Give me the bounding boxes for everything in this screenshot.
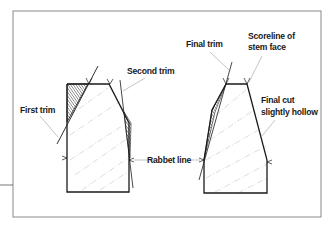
rabbet-tick-icon: [62, 156, 67, 160]
stem-trimming-diagram: First trim Second trim Rabbet line Final…: [0, 0, 329, 230]
first-trim-waste: [67, 84, 88, 122]
right-stem-outline: [204, 84, 267, 193]
rabbet-tick-icon: [267, 160, 272, 164]
label-rabbet-line: Rabbet line: [147, 155, 192, 165]
label-second-trim: Second trim: [127, 66, 175, 76]
label-first-trim: First trim: [20, 105, 56, 115]
final-trim-cut-line: [199, 62, 232, 180]
first-trim-cut-line: [57, 66, 98, 144]
second-trim-cut-line: [120, 80, 133, 188]
label-scoreline-line2: stem face: [248, 42, 286, 52]
label-scoreline-line1: Scoreline of: [248, 31, 295, 41]
left-stem-section: [57, 66, 134, 192]
label-final-trim: Final trim: [186, 39, 223, 49]
label-final-cut-line2: slightly hollow: [261, 107, 318, 117]
scoreline-tick-icon: [244, 78, 250, 84]
label-final-cut-line1: Final cut: [261, 95, 295, 105]
scoreline-tick-icon: [107, 79, 113, 84]
right-stem-section: [199, 62, 272, 193]
